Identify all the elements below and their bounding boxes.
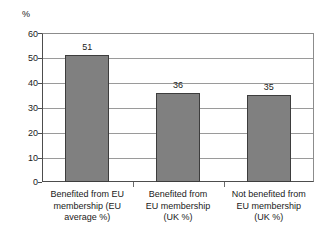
y-axis-tick-label-10: 10 bbox=[14, 154, 38, 163]
category-label-line: EU membership bbox=[135, 201, 222, 213]
category-label-line: (UK %) bbox=[135, 212, 222, 224]
category-label-line: Not benefited from bbox=[225, 189, 312, 201]
category-label-line: Benefited from bbox=[135, 189, 222, 201]
bar-value-label-2: 35 bbox=[249, 83, 289, 92]
y-axis-tick-label-60: 60 bbox=[14, 30, 38, 39]
x-axis-category-label-2: Not benefited from EU membership (UK %) bbox=[223, 189, 314, 237]
bar-value-label-1: 36 bbox=[158, 81, 198, 90]
y-axis-tick-label-30: 30 bbox=[14, 104, 38, 113]
y-axis-tick-label-20: 20 bbox=[14, 129, 38, 138]
bars-layer bbox=[42, 33, 314, 182]
y-axis-unit-label: % bbox=[22, 9, 30, 19]
bar-value-label-0: 51 bbox=[67, 43, 107, 52]
bar-chart: % 60 50 40 30 20 10 0 51 36 35 Benefited… bbox=[0, 0, 333, 244]
y-axis-tick-label-50: 50 bbox=[14, 54, 38, 63]
y-axis-tick-label-40: 40 bbox=[14, 79, 38, 88]
y-axis-tick-mark-0 bbox=[38, 182, 42, 183]
x-axis-tick-mark-1 bbox=[133, 182, 134, 187]
category-label-line: EU membership bbox=[225, 201, 312, 213]
x-axis-tick-mark-2 bbox=[224, 182, 225, 187]
bar-not-benefited-uk[interactable] bbox=[247, 95, 291, 182]
y-axis-tick-label-0: 0 bbox=[14, 178, 38, 187]
category-label-line: Benefited from EU bbox=[44, 189, 131, 201]
category-label-line: (UK %) bbox=[225, 212, 312, 224]
x-axis-category-label-1: Benefited from EU membership (UK %) bbox=[133, 189, 224, 237]
bar-benefited-eu-average[interactable] bbox=[65, 55, 109, 182]
x-axis-category-labels: Benefited from EU membership (EU average… bbox=[42, 189, 314, 237]
category-label-line: membership (EU bbox=[44, 201, 131, 213]
category-label-line: average %) bbox=[44, 212, 131, 224]
bar-benefited-uk[interactable] bbox=[156, 93, 200, 182]
x-axis-category-label-0: Benefited from EU membership (EU average… bbox=[42, 189, 133, 237]
